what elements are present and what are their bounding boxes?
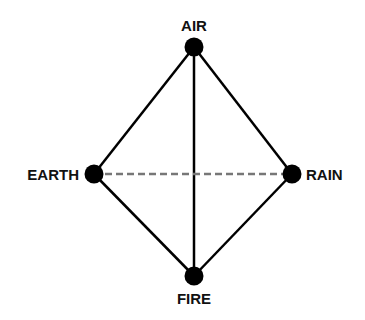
edge-air-rain	[194, 47, 292, 174]
node-earth	[85, 165, 104, 184]
label-earth: EARTH	[27, 166, 79, 183]
edge-air-earth	[94, 47, 194, 174]
node-rain	[283, 165, 302, 184]
label-air: AIR	[181, 17, 207, 34]
element-diagram: AIR EARTH RAIN FIRE	[0, 0, 365, 320]
edge-earth-fire	[94, 174, 194, 276]
label-rain: RAIN	[306, 166, 343, 183]
node-fire	[185, 267, 204, 286]
label-fire: FIRE	[177, 290, 211, 307]
edge-rain-fire	[194, 174, 292, 276]
node-air	[185, 38, 204, 57]
